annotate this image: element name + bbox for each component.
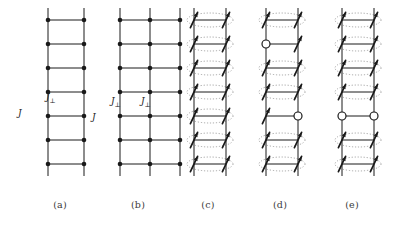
lattice-site [118, 114, 123, 119]
panel-e [322, 0, 394, 229]
lattice-site [82, 138, 87, 143]
j-leg-label-symbol: J [92, 112, 96, 122]
j-leg-label: J [92, 112, 96, 122]
lattice-site [148, 138, 153, 143]
lattice-site [46, 18, 51, 23]
j-leg-label-symbol: J [18, 108, 22, 118]
lattice-site [118, 138, 123, 143]
lattice-site [82, 18, 87, 23]
lattice-site [148, 42, 153, 47]
panel-c-graphic [174, 0, 246, 229]
panel-e-graphic [322, 0, 394, 229]
panel-c [174, 0, 246, 229]
lattice-site [148, 66, 153, 71]
lattice-site [118, 18, 123, 23]
lattice-site [148, 18, 153, 23]
lattice-site [148, 114, 153, 119]
j-perp-label: J⊥ [46, 92, 56, 105]
hole-left-leg [262, 40, 270, 48]
j-perp-label-left-subscript: ⊥ [115, 101, 121, 109]
panel-caption-c: (c) [176, 199, 240, 210]
panel-caption-e: (e) [316, 199, 388, 210]
lattice-site [82, 90, 87, 95]
hole-pair-left [338, 112, 346, 120]
lattice-site [148, 162, 153, 167]
j-perp-label-right-subscript: ⊥ [145, 101, 151, 109]
lattice-site [148, 90, 153, 95]
panel-caption-b: (b) [100, 199, 176, 210]
lattice-site [118, 66, 123, 71]
panel-caption-a: (a) [28, 199, 92, 210]
j-leg-label: J [18, 108, 22, 118]
lattice-site [46, 66, 51, 71]
lattice-site [118, 90, 123, 95]
panel-d-graphic [246, 0, 318, 229]
hole-pair-right [370, 112, 378, 120]
lattice-site [82, 162, 87, 167]
figure-container: J⊥J(a)J⊥J⊥J(b)(c)(d)(e) [0, 0, 408, 229]
lattice-site [82, 114, 87, 119]
panel-d [246, 0, 318, 229]
lattice-site [46, 114, 51, 119]
j-perp-label-subscript: ⊥ [50, 97, 56, 105]
lattice-site [46, 162, 51, 167]
lattice-site [118, 162, 123, 167]
lattice-site [46, 138, 51, 143]
panel-caption-d: (d) [248, 199, 312, 210]
lattice-site [82, 42, 87, 47]
hole-right-leg [294, 112, 302, 120]
lattice-site [46, 42, 51, 47]
j-perp-label-left: J⊥ [111, 96, 121, 109]
lattice-site [118, 42, 123, 47]
lattice-site [82, 66, 87, 71]
j-perp-label-right: J⊥ [141, 96, 151, 109]
